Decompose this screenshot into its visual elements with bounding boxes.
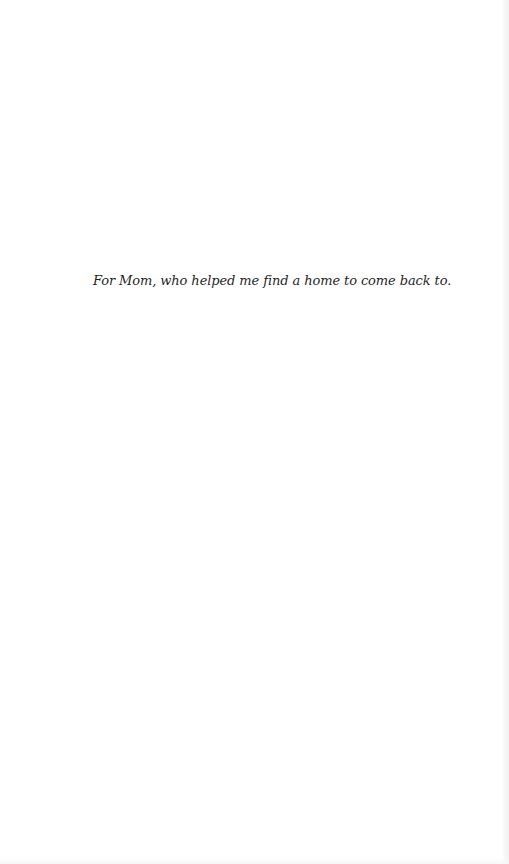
book-page: For Mom, who helped me find a home to co… (0, 0, 509, 864)
dedication-text: For Mom, who helped me find a home to co… (93, 273, 451, 289)
page-bottom-shadow (0, 858, 509, 864)
page-edge-shadow (501, 0, 509, 864)
